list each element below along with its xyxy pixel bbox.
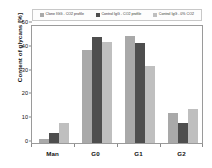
bar (125, 36, 135, 143)
y-axis-tick-labels: 01020304050 (14, 22, 28, 144)
x-tick-mark (74, 144, 75, 147)
legend-swatch-icon (153, 13, 157, 17)
y-tick-label: 20 (14, 90, 28, 96)
bar-group-bars (32, 26, 75, 143)
bar (188, 109, 198, 144)
x-tick-label: G2 (177, 150, 185, 157)
y-tick-label: 40 (14, 43, 28, 49)
x-tick-mark (31, 144, 32, 147)
y-tick-label: 50 (14, 19, 28, 25)
legend-item: Clone IGG - CO2 profile (40, 13, 84, 17)
bar (92, 37, 102, 143)
x-axis-tick-labels: ManG0G1G2 (31, 150, 203, 162)
x-tick-mark (160, 144, 161, 147)
legend-swatch-icon (40, 13, 44, 17)
bar-group-bars (118, 26, 161, 143)
bar (82, 50, 92, 143)
legend-label: Control IgG - 0% CO2 (159, 13, 194, 17)
bar-group (118, 26, 161, 143)
bar-group (32, 26, 75, 143)
bar (168, 113, 178, 143)
x-tick-label: G0 (91, 150, 99, 157)
legend-item: Control IgG - 0% CO2 (153, 13, 194, 17)
y-tick-mark (29, 22, 32, 23)
bar (59, 123, 69, 143)
chart-legend: Clone IGG - CO2 profileControl IgG - CO2… (32, 9, 202, 21)
bar (49, 133, 59, 143)
bar (39, 139, 49, 143)
bar-group-bars (161, 26, 204, 143)
x-tick-label: G1 (134, 150, 142, 157)
bar (135, 43, 145, 143)
legend-label: Clone IGG - CO2 profile (46, 13, 84, 17)
y-tick-label: 30 (14, 67, 28, 73)
bar (102, 42, 112, 143)
bar (145, 66, 155, 143)
bar-group (161, 26, 204, 143)
plot-inner (32, 26, 202, 143)
legend-label: Control IgG - CO2 profile (101, 13, 141, 17)
plot-area (31, 25, 203, 144)
x-axis-tick-marks (31, 144, 203, 149)
x-tick-mark (202, 144, 203, 147)
bar-group-bars (75, 26, 118, 143)
legend-item: Control IgG - CO2 profile (96, 13, 141, 17)
y-tick-label: 0 (14, 138, 28, 144)
bar-chart-figure: Clone IGG - CO2 profileControl IgG - CO2… (0, 0, 212, 168)
bar (178, 123, 188, 143)
bar-group (75, 26, 118, 143)
x-tick-label: Man (46, 150, 58, 157)
x-tick-mark (117, 144, 118, 147)
legend-swatch-icon (96, 13, 100, 17)
y-tick-label: 10 (14, 114, 28, 120)
